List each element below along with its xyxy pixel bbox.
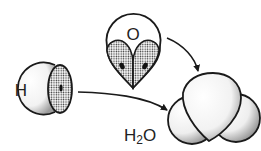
arrow-hydrogen-to-water bbox=[78, 92, 167, 110]
hydrogen-electron bbox=[59, 84, 62, 91]
arrow-oxygen-to-water bbox=[167, 38, 198, 71]
hydrogen-label: H bbox=[15, 81, 27, 100]
oxygen-label: O bbox=[126, 25, 139, 44]
hydrogen-atom: H bbox=[15, 63, 72, 115]
oxygen-atom: O bbox=[107, 14, 161, 88]
water-label: H2O bbox=[124, 126, 156, 147]
water-molecule bbox=[168, 73, 260, 144]
water-formation-diagram: O H H2O bbox=[0, 0, 261, 151]
